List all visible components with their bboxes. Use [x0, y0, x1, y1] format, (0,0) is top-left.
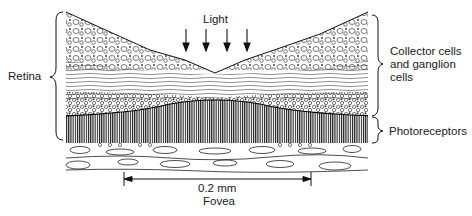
light-label: Light — [203, 13, 228, 26]
choroid-layer — [66, 146, 368, 173]
retina-label: Retina — [8, 70, 41, 83]
light-arrows — [183, 29, 250, 51]
collector-brace — [372, 15, 383, 116]
fovea-label: Fovea — [203, 195, 235, 208]
collector-cells-label: Collector cells and ganglion cells — [390, 45, 462, 84]
scale-label: 0.2 mm — [198, 182, 236, 195]
photoreceptors-label: Photoreceptors — [389, 125, 467, 138]
retina-brace — [50, 12, 63, 140]
photoreceptor-brace — [372, 117, 383, 143]
